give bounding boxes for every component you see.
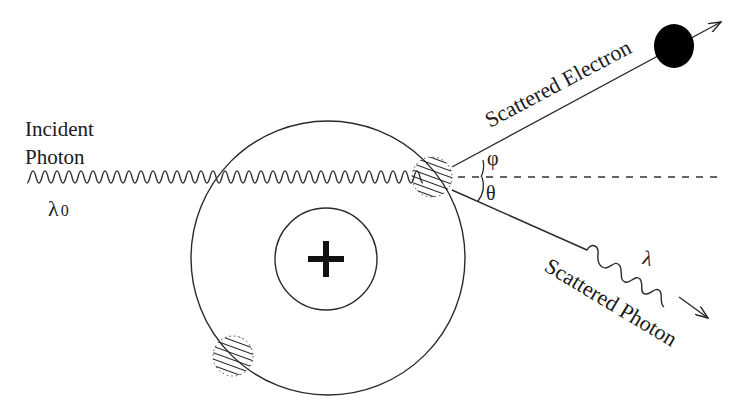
phi-angle-arc [481,160,484,177]
scattered-photon-arrow-line [679,297,708,318]
incident-wavelength-label: λ0 [48,196,69,221]
scattered-photon-label: Scattered Photon [540,253,681,352]
incident-photon-label-line2: Photon [25,145,85,169]
scattered-photon-path [452,190,664,307]
colliding-electron [412,157,452,197]
orbital-electron [213,336,253,376]
incident-photon-label-line1: Incident [25,117,94,141]
theta-label: θ [486,182,496,204]
scattered-electron [654,24,694,68]
theta-angle-arc [478,177,483,201]
phi-label: φ [487,147,499,170]
scattered-wavelength-label: λ [640,246,655,270]
incident-photon-wave [27,171,423,183]
plus-icon [308,241,344,277]
scattered-electron-label: Scattered Electron [481,34,636,132]
compton-scattering-diagram: Incident Photon λ0 φ θ Scattered Electro… [0,0,750,413]
